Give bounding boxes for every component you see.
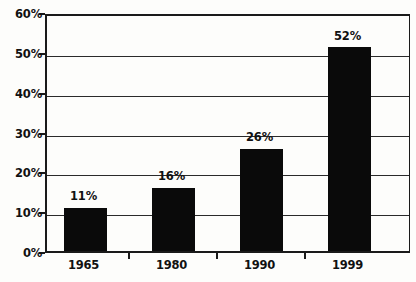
bar-value-1980: 16% xyxy=(158,169,185,183)
y-axis-label-10: 10% xyxy=(2,206,42,220)
y-axis-label-0: 0% xyxy=(2,246,42,260)
bar-value-1990: 26% xyxy=(246,130,273,144)
bar-value-1965: 11% xyxy=(70,189,97,203)
bar-1990 xyxy=(240,149,283,251)
x-tick-2 xyxy=(304,253,306,259)
bar-1965 xyxy=(64,208,107,251)
plot-area xyxy=(45,14,410,253)
y-axis-label-30: 30% xyxy=(2,127,42,141)
x-axis-label-1999: 1999 xyxy=(332,258,363,272)
bar-1980 xyxy=(152,188,195,251)
bar-1999 xyxy=(328,47,371,251)
y-axis-label-40: 40% xyxy=(2,87,42,101)
y-axis-label-60: 60% xyxy=(2,7,42,21)
bar-value-1999: 52% xyxy=(334,29,361,43)
bar-chart: 0% 10% 20% 30% 40% 50% 60% 11% 16% 26% 5… xyxy=(0,0,416,282)
y-axis-label-50: 50% xyxy=(2,47,42,61)
x-tick-1 xyxy=(216,253,218,259)
x-axis-label-1980: 1980 xyxy=(156,258,187,272)
x-tick-0 xyxy=(128,253,130,259)
x-axis-label-1965: 1965 xyxy=(68,258,99,272)
x-axis-label-1990: 1990 xyxy=(244,258,275,272)
y-axis-label-20: 20% xyxy=(2,166,42,180)
